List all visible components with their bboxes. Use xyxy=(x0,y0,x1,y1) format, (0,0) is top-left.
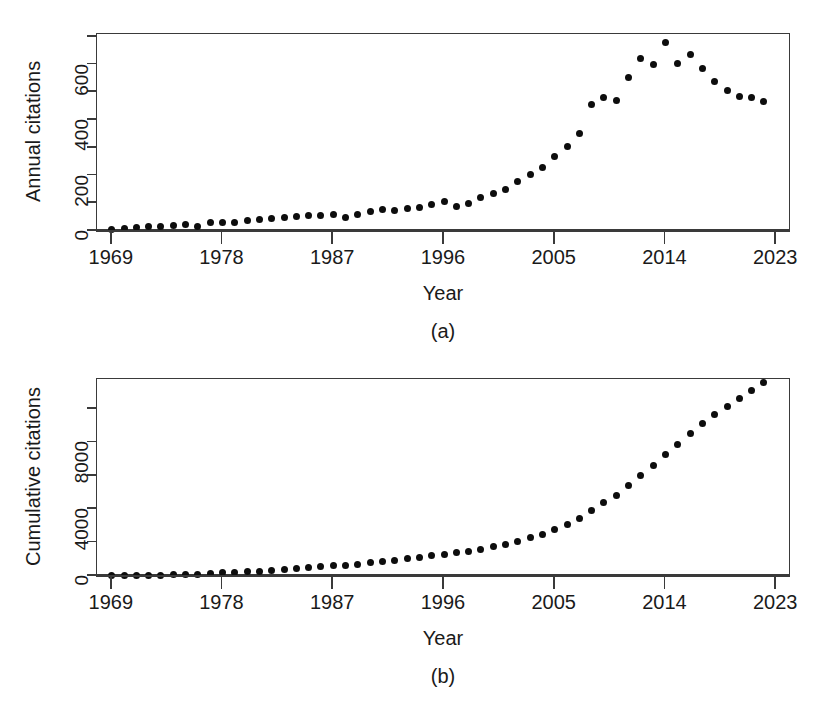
data-point xyxy=(416,554,423,561)
x-axis-tick-label: 2014 xyxy=(642,246,687,269)
y-axis-tick-label: 200 xyxy=(71,175,93,207)
data-point xyxy=(514,178,521,185)
data-point xyxy=(317,563,324,570)
data-point xyxy=(330,562,337,569)
x-axis-tick xyxy=(331,576,333,589)
data-point xyxy=(699,420,706,427)
x-axis-tick xyxy=(553,231,555,244)
data-point xyxy=(256,568,263,575)
data-point xyxy=(305,564,312,571)
plot-area-annual xyxy=(96,33,790,230)
data-point xyxy=(662,451,669,458)
data-point xyxy=(453,203,460,210)
x-axis-tick xyxy=(442,231,444,244)
x-axis-tick xyxy=(110,231,112,244)
panel-label-a: (a) xyxy=(96,320,790,343)
panel-annual-citations: Annual citations 0200400600 196919781987… xyxy=(0,0,831,355)
x-axis-tick xyxy=(664,576,666,589)
x-axis-tick-label: 1978 xyxy=(199,246,244,269)
data-point xyxy=(342,214,349,221)
y-axis-tick-label: 4000 xyxy=(71,508,93,550)
x-axis-tick-label: 1969 xyxy=(89,591,134,614)
data-point xyxy=(724,403,731,410)
data-point xyxy=(551,153,558,160)
data-point xyxy=(477,194,484,201)
data-point xyxy=(637,472,644,479)
data-point xyxy=(404,555,411,562)
y-axis-tick-label: 0 xyxy=(71,575,93,586)
data-point xyxy=(600,499,607,506)
data-point xyxy=(527,534,534,541)
data-point xyxy=(379,206,386,213)
data-point xyxy=(465,548,472,555)
data-point xyxy=(674,60,681,67)
data-point xyxy=(564,143,571,150)
data-point xyxy=(428,201,435,208)
x-axis-tick xyxy=(774,576,776,589)
data-point xyxy=(650,462,657,469)
data-point xyxy=(194,223,201,230)
data-point xyxy=(662,39,669,46)
panel-label-b: (b) xyxy=(96,665,790,688)
data-point xyxy=(416,204,423,211)
x-axis-tick-label: 1987 xyxy=(310,246,355,269)
data-point xyxy=(527,171,534,178)
data-point xyxy=(477,546,484,553)
x-axis-tick-label: 2005 xyxy=(531,246,576,269)
data-point xyxy=(441,198,448,205)
data-point xyxy=(600,94,607,101)
data-point xyxy=(207,219,214,226)
data-point xyxy=(281,214,288,221)
data-point xyxy=(379,558,386,565)
data-point xyxy=(170,222,177,229)
data-point xyxy=(613,97,620,104)
data-point xyxy=(711,411,718,418)
data-point xyxy=(687,51,694,58)
y-axis-tick xyxy=(87,407,96,409)
data-point xyxy=(760,379,767,386)
data-point xyxy=(551,526,558,533)
y-axis-tick-label: 0 xyxy=(71,230,93,241)
data-point xyxy=(687,430,694,437)
data-point xyxy=(699,65,706,72)
data-point xyxy=(256,216,263,223)
data-point xyxy=(465,200,472,207)
data-point xyxy=(342,562,349,569)
data-point xyxy=(354,211,361,218)
data-point xyxy=(514,538,521,545)
panel-cumulative-citations: Cumulative citations 040008000 196919781… xyxy=(0,355,831,710)
data-point xyxy=(219,219,226,226)
data-point xyxy=(711,78,718,85)
data-point xyxy=(428,552,435,559)
data-point xyxy=(650,61,657,68)
y-axis-tick xyxy=(87,35,96,37)
x-axis-tick-label: 2023 xyxy=(753,246,798,269)
citations-figure: Annual citations 0200400600 196919781987… xyxy=(0,0,831,710)
data-point xyxy=(244,217,251,224)
data-point xyxy=(539,164,546,171)
data-point xyxy=(404,205,411,212)
y-axis-tick-label: 400 xyxy=(71,119,93,151)
data-point xyxy=(391,557,398,564)
y-axis-tick-label: 8000 xyxy=(71,441,93,483)
x-axis-tick-label: 1969 xyxy=(89,246,134,269)
data-point xyxy=(317,212,324,219)
data-point xyxy=(354,561,361,568)
data-point xyxy=(268,215,275,222)
data-point xyxy=(453,549,460,556)
x-axis-tick-label: 2014 xyxy=(642,591,687,614)
data-point xyxy=(268,567,275,574)
data-point xyxy=(490,190,497,197)
x-axis-tick xyxy=(553,576,555,589)
data-point xyxy=(293,565,300,572)
data-point xyxy=(674,441,681,448)
data-point xyxy=(588,507,595,514)
data-point xyxy=(564,521,571,528)
data-point xyxy=(588,101,595,108)
data-point xyxy=(724,87,731,94)
data-point xyxy=(748,94,755,101)
data-point xyxy=(281,566,288,573)
x-axis-tick-label: 1996 xyxy=(421,591,466,614)
x-axis-tick-label: 1996 xyxy=(421,246,466,269)
data-point xyxy=(293,213,300,220)
